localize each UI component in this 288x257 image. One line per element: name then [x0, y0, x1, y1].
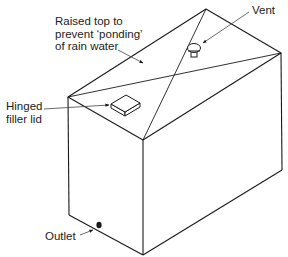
tank-bottom-right-edge: [143, 170, 282, 255]
outlet-icon: [96, 222, 101, 228]
leader-vent: [203, 12, 249, 43]
outlet-label: Outlet: [45, 230, 76, 243]
vent-icon: [188, 44, 201, 58]
tank-left-edge: [68, 97, 69, 215]
raised-top-label: Raised top to prevent ‘ponding’ of rain …: [55, 15, 143, 53]
tank-right-edge: [281, 53, 282, 170]
hinged-filler-lid: [111, 95, 140, 116]
hinged-lid-label-line-1: Hinged: [6, 100, 42, 113]
raised-top-label-line-2: prevent ‘ponding’: [55, 28, 143, 41]
hinged-lid-label: Hinged filler lid: [6, 100, 42, 125]
leader-outlet: [80, 230, 93, 235]
water-tank-diagram: [0, 0, 288, 257]
raised-top-label-line-3: of rain water: [55, 40, 143, 53]
leader-hinged-lid: [44, 105, 109, 109]
raised-top-label-line-1: Raised top to: [55, 15, 143, 28]
vent-label: Vent: [252, 4, 275, 17]
hinged-lid-label-line-2: filler lid: [6, 113, 42, 126]
